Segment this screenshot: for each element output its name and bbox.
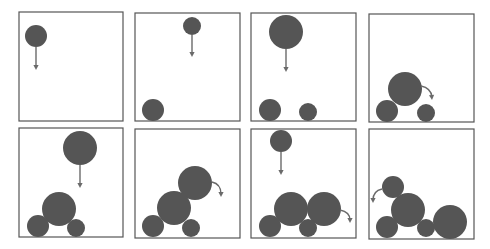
panel-8 xyxy=(369,129,474,239)
ball-circle xyxy=(25,25,47,47)
ball-circle xyxy=(299,103,317,121)
panel-5 xyxy=(19,128,123,237)
ball-circle xyxy=(376,100,398,122)
ball-circle xyxy=(67,219,85,237)
ball-circle xyxy=(183,17,201,35)
ball-circle xyxy=(417,104,435,122)
ball-circle xyxy=(259,99,281,121)
panel-6 xyxy=(135,129,240,238)
panel-1 xyxy=(19,12,123,121)
ball-circle xyxy=(259,215,281,237)
falling-circles-diagram xyxy=(0,0,490,249)
panel-4 xyxy=(369,14,474,122)
ball-circle xyxy=(270,130,292,152)
ball-circle xyxy=(376,216,398,238)
ball-circle xyxy=(142,99,164,121)
ball-circle xyxy=(269,15,303,49)
ball-circle xyxy=(63,131,97,165)
ball-circle xyxy=(417,219,435,237)
ball-circle xyxy=(299,219,317,237)
ball-circle xyxy=(142,215,164,237)
panel-2 xyxy=(135,13,240,121)
ball-circle xyxy=(27,215,49,237)
panel-3 xyxy=(251,13,356,121)
ball-circle xyxy=(388,72,422,106)
ball-circle xyxy=(433,205,467,239)
ball-circle xyxy=(182,219,200,237)
panel-7 xyxy=(251,129,356,238)
